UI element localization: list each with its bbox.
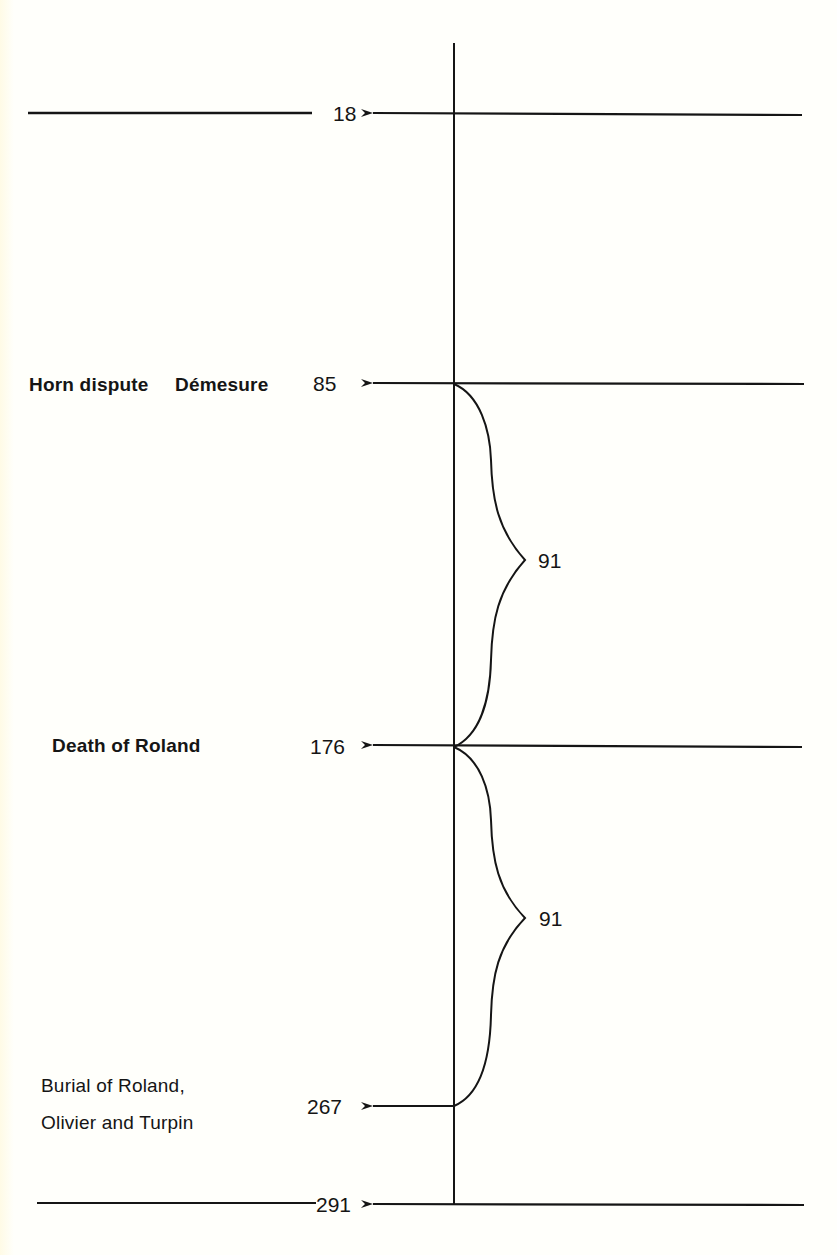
event-label-demesure: Démesure	[175, 374, 268, 396]
event-label-burial-line2: Olivier and Turpin	[41, 1112, 194, 1134]
marker-18-arrow	[373, 113, 802, 115]
marker-value-291: 291	[316, 1194, 351, 1216]
brace-85-176	[454, 384, 525, 747]
marker-value-267: 267	[307, 1096, 342, 1118]
marker-value-176: 176	[310, 736, 345, 758]
brace-176-267	[454, 747, 525, 1106]
marker-291-arrow	[373, 1204, 804, 1205]
event-label-death-of-roland: Death of Roland	[52, 735, 201, 757]
marker-176-arrow	[373, 745, 802, 747]
brace-span-label-2: 91	[539, 908, 562, 930]
marker-85-arrow	[373, 383, 804, 384]
marker-value-18: 18	[333, 103, 356, 125]
diagram-canvas	[0, 0, 837, 1255]
event-label-horn-dispute: Horn dispute	[29, 374, 149, 396]
marker-value-85: 85	[313, 373, 336, 395]
brace-span-label-1: 91	[538, 550, 561, 572]
event-label-burial-line1: Burial of Roland,	[41, 1075, 185, 1097]
